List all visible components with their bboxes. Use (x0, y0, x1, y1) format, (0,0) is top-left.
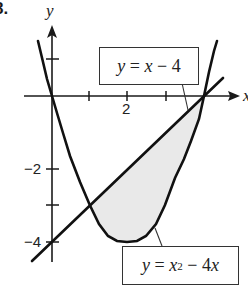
problem-number: 8. (0, 0, 8, 19)
line-rest: − 4 (153, 56, 181, 77)
y-tick-label-neg4: −4 (24, 233, 41, 250)
parabola-label-leader (155, 228, 162, 246)
parabola-eq: = (150, 255, 169, 276)
shaded-region-fill (90, 96, 204, 242)
parabola-equation-label: y = x2 − 4x (122, 246, 239, 285)
line-equation-label: y = x − 4 (99, 47, 199, 85)
parabola-var2: x (211, 255, 219, 276)
line-eq: = (125, 56, 144, 77)
parabola-lhs: y (142, 255, 150, 276)
parabola-rest: − 4 (183, 255, 211, 276)
line-lhs: y (117, 56, 125, 77)
parabola-var: x (169, 255, 177, 276)
y-tick-label-neg2: −2 (24, 160, 41, 177)
line-var: x (145, 56, 153, 77)
y-axis-label: y (46, 1, 54, 21)
x-tick-label-2: 2 (122, 100, 130, 117)
x-axis-label: x (243, 86, 248, 106)
